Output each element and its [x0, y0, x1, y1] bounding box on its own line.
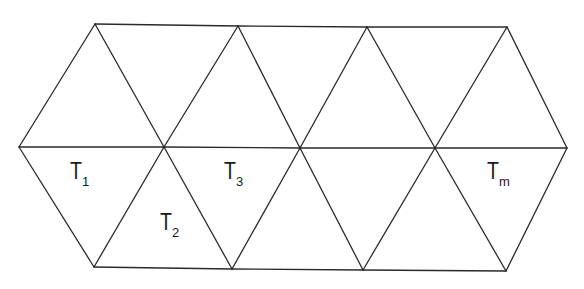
bottom-edge — [94, 267, 232, 269]
lower-diagonal — [363, 148, 435, 270]
upper-diagonal — [367, 27, 435, 148]
upper-diagonal — [95, 24, 164, 147]
label-t3: T3 — [224, 160, 243, 183]
top-edge — [238, 26, 367, 27]
label-t2-letter: T — [160, 211, 172, 234]
upper-diagonal — [300, 27, 367, 148]
upper-diagonal — [19, 24, 95, 147]
middle-edge — [164, 147, 300, 148]
top-edge — [95, 24, 238, 26]
upper-diagonal — [507, 27, 567, 148]
lower-diagonal — [506, 148, 567, 271]
label-tm: Tm — [487, 160, 510, 183]
label-t3-subscript: 3 — [236, 175, 243, 188]
bottom-edge — [363, 270, 506, 271]
upper-diagonal — [435, 27, 507, 148]
label-t2: T2 — [160, 211, 179, 234]
label-t2-subscript: 2 — [172, 226, 179, 239]
label-tm-subscript: m — [499, 175, 510, 188]
label-tm-letter: T — [487, 160, 499, 183]
label-t1: T1 — [70, 160, 89, 183]
lower-diagonal — [164, 147, 232, 269]
triangle-mesh — [0, 0, 584, 289]
lower-diagonal — [94, 147, 164, 267]
label-t1-letter: T — [70, 160, 82, 183]
label-t1-subscript: 1 — [82, 175, 89, 188]
label-t3-letter: T — [224, 160, 236, 183]
lower-diagonal — [300, 148, 363, 270]
bottom-edge — [232, 269, 363, 270]
upper-diagonal — [164, 26, 238, 147]
triangle-strip-diagram: T1 T2 T3 Tm — [0, 0, 584, 289]
upper-diagonal — [238, 26, 300, 148]
